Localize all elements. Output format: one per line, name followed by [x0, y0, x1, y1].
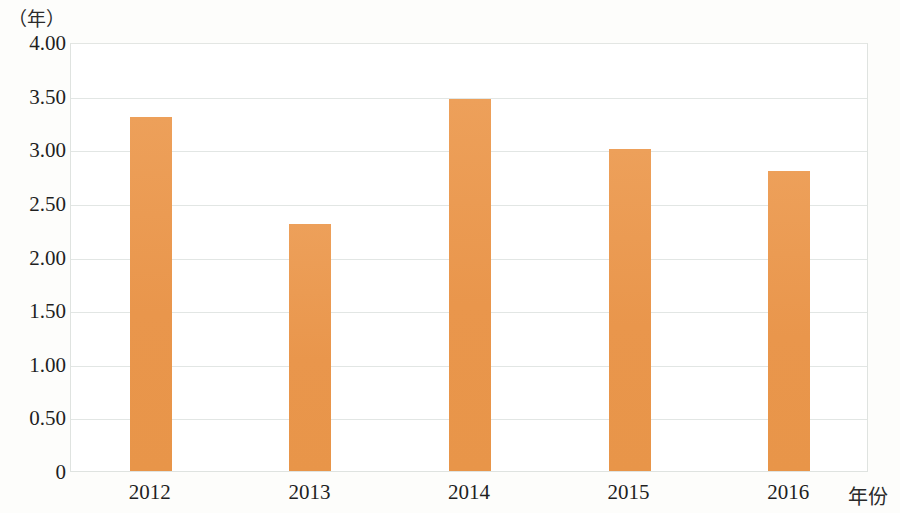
- x-axis-tick-label-2015: 2015: [608, 480, 650, 505]
- y-axis-tick-label: 4.00: [2, 31, 66, 56]
- plot-area: [70, 43, 868, 472]
- y-axis-tick-labels: 4.003.503.002.502.001.501.000.500: [0, 0, 66, 513]
- y-axis-tick-label: 3.00: [2, 138, 66, 163]
- x-axis-title: 年份: [848, 481, 888, 510]
- y-axis-tick-label: 2.00: [2, 245, 66, 270]
- bar-2013: [289, 224, 331, 471]
- x-axis-tick-label-2016: 2016: [767, 480, 809, 505]
- x-axis-tick-label-2014: 2014: [448, 480, 490, 505]
- x-axis-tick-labels: 20122013201420152016: [70, 476, 868, 513]
- bar-2014: [449, 99, 491, 471]
- bar-2015: [609, 149, 651, 471]
- y-axis-tick-label: 0: [2, 460, 66, 485]
- x-axis-tick-label-2012: 2012: [129, 480, 171, 505]
- y-axis-tick-label: 1.50: [2, 299, 66, 324]
- y-axis-tick-label: 2.50: [2, 191, 66, 216]
- bar-chart: （年） 4.003.503.002.502.001.501.000.500 20…: [0, 0, 900, 513]
- bar-2012: [130, 117, 172, 471]
- y-axis-tick-label: 0.50: [2, 406, 66, 431]
- bar-2016: [768, 171, 810, 471]
- bars-group: [71, 44, 867, 471]
- y-axis-tick-label: 1.00: [2, 352, 66, 377]
- x-axis-tick-label-2013: 2013: [288, 480, 330, 505]
- y-axis-tick-label: 3.50: [2, 84, 66, 109]
